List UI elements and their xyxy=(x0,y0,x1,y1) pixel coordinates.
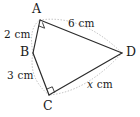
vertex-label-b: B xyxy=(20,46,29,59)
solid-edge-ab xyxy=(33,20,40,53)
measure-unit-cd: cm xyxy=(97,78,113,90)
measure-variable-x: x xyxy=(87,78,93,90)
measure-label-cd: x cm xyxy=(87,79,113,90)
measure-label-bc: 3 cm xyxy=(7,70,34,81)
vertex-label-c: C xyxy=(43,100,53,113)
measure-label-ab: 2 cm xyxy=(4,29,31,40)
vertex-label-d: D xyxy=(126,46,136,59)
measure-label-ad: 6 cm xyxy=(68,18,95,29)
vertex-label-a: A xyxy=(32,3,41,16)
geometry-figure: A B C D 2 cm 6 cm 3 cm x cm xyxy=(0,0,140,117)
